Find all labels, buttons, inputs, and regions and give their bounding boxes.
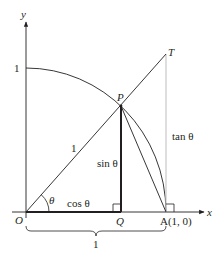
radius-label: 1 [71,142,77,154]
point-q-label: Q [116,215,124,227]
right-angle-marker-a [166,204,174,212]
point-p-label: P [116,91,124,103]
cos-label: cos θ [67,197,90,209]
sin-label: sin θ [97,157,118,169]
chord-pa [121,106,166,212]
angle-arc [41,195,49,212]
tan-label: tan θ [172,130,193,142]
length-brace [26,226,166,236]
y-intercept-label: 1 [14,62,20,74]
unit-circle-diagram: y x 1 T P 1 sin θ tan θ θ cos θ O Q A(1,… [0,0,222,260]
brace-length-label: 1 [93,238,99,250]
angle-label: θ [49,194,55,206]
unit-circle-arc [26,68,166,212]
y-axis-label: y [20,8,26,20]
ray-ot [26,54,166,212]
point-t-label: T [168,46,175,58]
point-a-label: A(1, 0) [160,215,192,228]
origin-label: O [15,214,23,226]
diagram-canvas: y x 1 T P 1 sin θ tan θ θ cos θ O Q A(1,… [0,0,222,260]
right-angle-marker-q [113,204,121,212]
x-axis-label: x [206,206,212,218]
point-p-dot [120,105,123,108]
